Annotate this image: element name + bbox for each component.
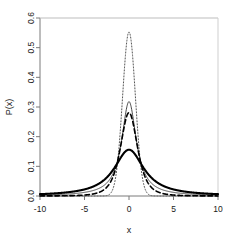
y-tick-label: 0.2 <box>26 130 36 142</box>
y-axis-title: P(x) <box>4 99 14 116</box>
y-tick-label: 0.1 <box>26 160 36 172</box>
x-tick-label: -5 <box>81 204 89 214</box>
x-tick-label: 10 <box>213 204 223 214</box>
x-tick-label: 5 <box>171 204 176 214</box>
x-axis-title: x <box>127 225 132 235</box>
density-plot: 0.00.10.20.30.40.50.6 -10-50510 x P(x) <box>0 0 236 243</box>
y-tick-label: 0.0 <box>26 190 36 202</box>
x-tick-label: 0 <box>127 204 132 214</box>
x-tick-label: -10 <box>34 204 47 214</box>
y-tick-label: 0.5 <box>26 41 36 53</box>
y-tick-label: 0.4 <box>26 71 36 83</box>
y-tick-label: 0.3 <box>26 101 36 113</box>
figure-container: 0.00.10.20.30.40.50.6 -10-50510 x P(x) <box>0 0 236 243</box>
y-tick-label: 0.6 <box>26 12 36 24</box>
